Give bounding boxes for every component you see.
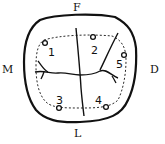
mesial-groove-branch-lower <box>41 72 44 79</box>
point-4-label: 4 <box>95 95 102 106</box>
tooth-outline-svg <box>0 0 165 144</box>
point-1-label: 1 <box>48 47 55 58</box>
point-2-marker <box>91 35 96 40</box>
central-vertical-groove <box>76 28 84 116</box>
point-4-marker <box>104 105 109 110</box>
label-lingual: L <box>74 128 81 139</box>
mesial-groove-branch-upper <box>38 61 48 72</box>
label-distal: D <box>150 64 159 75</box>
point-1-marker <box>43 41 48 46</box>
label-facial: F <box>73 2 81 13</box>
point-5-marker <box>122 53 127 58</box>
point-5-label: 5 <box>116 59 123 70</box>
label-mesial: M <box>2 64 13 75</box>
tooth-diagram: F L M D 1 2 3 4 5 <box>0 0 165 144</box>
point-2-label: 2 <box>91 45 98 56</box>
point-3-label: 3 <box>56 95 63 106</box>
